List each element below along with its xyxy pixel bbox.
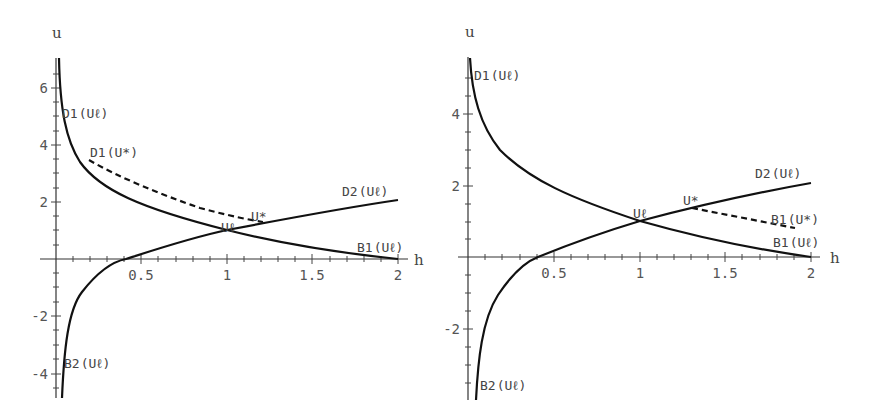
- x-tick-label: 1.5: [299, 267, 324, 283]
- label-b1-ul: B1(Uℓ): [357, 240, 403, 255]
- x-tick-label: 2: [807, 265, 815, 281]
- right-plot: 0.5 1 1.5 2 4 2 -2 u h D1(Uℓ) D2(Uℓ) U* …: [443, 23, 840, 400]
- y-tick-label: 6: [40, 80, 48, 96]
- left-plot: 0.5 1 1.5 2 6 4 2 -2 -4 u h D1(Uℓ) D1(U*…: [31, 24, 424, 398]
- y-tick-label: 4: [40, 137, 48, 153]
- x-tick-label: 0.5: [128, 267, 153, 283]
- x-tick-label: 2: [394, 267, 402, 283]
- x-tick-label: 0.5: [541, 265, 566, 281]
- x-axis-label: h: [414, 251, 424, 269]
- y-tick-label: -2: [443, 321, 460, 337]
- label-ul-point: Uℓ: [633, 206, 647, 221]
- x-tick-label: 1: [223, 267, 231, 283]
- y-tick-label: 2: [40, 194, 48, 210]
- y-tick-label: 4: [452, 106, 460, 122]
- label-us-point: U*: [251, 209, 267, 224]
- y-tick-label: -4: [31, 366, 48, 382]
- y-tick-label: 2: [452, 178, 460, 194]
- label-d1-ul: D1(Uℓ): [474, 68, 520, 83]
- label-ul-point: Uℓ: [221, 220, 235, 235]
- x-tick-label: 1.5: [712, 265, 737, 281]
- y-axis-label: u: [52, 24, 62, 42]
- label-d1-ul: D1(Uℓ): [62, 106, 108, 121]
- label-b2-ul: B2(Uℓ): [480, 378, 526, 393]
- label-d2-ul: D2(Uℓ): [342, 184, 388, 199]
- curve-d1-ul: [470, 58, 811, 257]
- label-b2-ul: B2(Uℓ): [64, 356, 110, 371]
- chart-canvas: 0.5 1 1.5 2 6 4 2 -2 -4 u h D1(Uℓ) D1(U*…: [0, 0, 880, 410]
- y-tick-label: -2: [31, 308, 48, 324]
- label-b1-us: B1(U*): [771, 212, 819, 227]
- label-d2-ul: D2(Uℓ): [755, 166, 801, 181]
- x-tick-label: 1: [636, 265, 644, 281]
- y-axis-label: u: [465, 23, 475, 41]
- label-b1-ul: B1(Uℓ): [773, 235, 819, 250]
- x-axis-label: h: [830, 249, 840, 267]
- label-d1-us: D1(U*): [90, 145, 138, 160]
- label-us-point: U*: [683, 193, 699, 208]
